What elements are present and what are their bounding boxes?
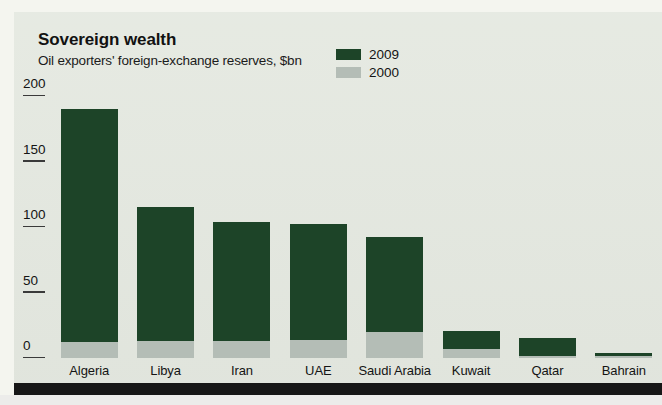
paper-margin-bottom [0, 395, 662, 405]
y-axis-tick-rule [23, 357, 45, 359]
y-axis-tick-label: 50 [23, 273, 38, 288]
bar-2000[interactable] [213, 341, 270, 358]
bar-series-container: AlgeriaLibyaIranUAESaudi ArabiaKuwaitQat… [51, 12, 662, 358]
y-axis-tick-label: 200 [23, 76, 46, 91]
paper-margin-left [0, 0, 14, 405]
bar-group[interactable]: Saudi Arabia [366, 12, 423, 358]
bar-2009[interactable] [213, 222, 270, 358]
bar-group[interactable]: Libya [137, 12, 194, 358]
bar-group[interactable]: Iran [213, 12, 270, 358]
y-axis-tick-label: 100 [23, 207, 46, 222]
bar-2000[interactable] [137, 341, 194, 358]
chart-figure: Sovereign wealth Oil exporters' foreign-… [0, 0, 662, 405]
x-axis-category-label: Bahrain [602, 358, 646, 378]
bar-2009[interactable] [519, 338, 576, 358]
x-axis-category-label: Algeria [69, 358, 109, 378]
bar-group[interactable]: Algeria [61, 12, 118, 358]
bar-2009[interactable] [137, 207, 194, 358]
x-axis-category-label: Libya [150, 358, 181, 378]
footer-rule [14, 383, 662, 395]
x-axis-category-label: Saudi Arabia [358, 358, 431, 378]
bar-group[interactable]: Qatar [519, 12, 576, 358]
bar-2000[interactable] [366, 332, 423, 358]
bar-2000[interactable] [61, 342, 118, 358]
bar-2000[interactable] [443, 349, 500, 358]
y-axis-tick-rule [23, 95, 45, 97]
y-axis-tick-label: 150 [23, 142, 46, 157]
bar-group[interactable]: Kuwait [443, 12, 500, 358]
bar-2009[interactable] [61, 109, 118, 358]
x-axis-category-label: UAE [305, 358, 331, 378]
y-axis-tick-rule [23, 160, 45, 162]
bar-group[interactable]: UAE [290, 12, 347, 358]
plot-area: 050100150200 AlgeriaLibyaIranUAESaudi Ar… [14, 12, 662, 383]
x-axis-category-label: Qatar [531, 358, 563, 378]
y-axis-tick-rule [23, 291, 45, 293]
x-axis-category-label: Kuwait [452, 358, 490, 378]
x-axis-category-label: Iran [231, 358, 253, 378]
bar-2000[interactable] [290, 340, 347, 358]
y-axis-tick-rule [23, 226, 45, 228]
bar-group[interactable]: Bahrain [595, 12, 652, 358]
chart-panel: Sovereign wealth Oil exporters' foreign-… [14, 12, 662, 383]
bar-2009[interactable] [290, 224, 347, 358]
paper-margin-top [0, 0, 662, 12]
y-axis-tick-label: 0 [23, 338, 31, 353]
